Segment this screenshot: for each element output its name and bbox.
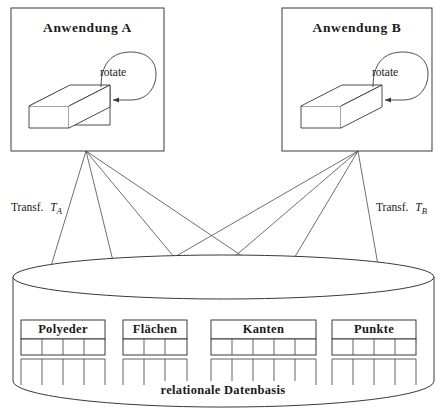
- transformation-a-subscript: A: [57, 206, 62, 216]
- table-flaechen-row-1: [123, 339, 187, 355]
- table-kanten-row-1: [211, 339, 316, 355]
- transformation-label-b: Transf. TB: [376, 201, 427, 216]
- application-a-title: Anwendung A: [11, 20, 164, 36]
- table-kanten-title: Kanten: [211, 322, 316, 337]
- transformation-a-prefix: Transf.: [11, 201, 43, 213]
- box-b-front-face: [301, 106, 341, 128]
- cylinder-top-ellipse: [13, 255, 434, 299]
- application-b-rotate-label: rotate: [372, 66, 398, 78]
- database-caption: relationale Datenbasis: [0, 383, 446, 398]
- application-a-rotate-label: rotate: [100, 66, 126, 78]
- transformation-b-prefix: Transf.: [376, 201, 408, 213]
- relational-database-architecture-diagram: Anwendung A rotate Anwendung B rotate Tr…: [0, 0, 446, 412]
- table-punkte-title: Punkte: [332, 322, 416, 337]
- table-polyeder-title: Polyeder: [21, 322, 105, 337]
- transformation-b-subscript: B: [422, 206, 427, 216]
- table-flaechen-title: Flächen: [123, 322, 187, 337]
- application-b-title: Anwendung B: [282, 20, 432, 36]
- transformation-label-a: Transf. TA: [11, 201, 62, 216]
- box-a-front-face: [29, 106, 69, 128]
